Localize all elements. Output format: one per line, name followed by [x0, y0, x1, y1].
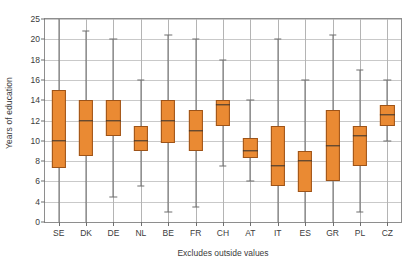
x-tick-mark: [333, 222, 334, 226]
x-tick-label: CH: [217, 228, 229, 238]
whisker-upper: [58, 19, 59, 90]
y-tick-mark: [41, 181, 45, 182]
x-tick-mark: [113, 222, 114, 226]
y-axis-title: Years of education: [2, 4, 16, 222]
whisker-lower: [86, 156, 87, 222]
whisker-upper: [223, 60, 224, 101]
x-tick-mark: [86, 222, 87, 226]
y-tick-mark: [41, 120, 45, 121]
whisker-upper: [359, 70, 360, 126]
whisker-cap-lower: [247, 181, 254, 182]
x-tick-mark: [168, 222, 169, 226]
y-tick-mark: [41, 140, 45, 141]
whisker-cap-lower: [137, 186, 144, 187]
y-tick-mark: [41, 100, 45, 101]
median-line: [52, 140, 66, 141]
y-tick-mark: [41, 222, 45, 223]
box-rect: [161, 100, 175, 143]
median-line: [380, 115, 394, 116]
whisker-cap-upper: [384, 79, 391, 80]
median-line: [353, 135, 367, 136]
y-tick-mark: [41, 201, 45, 202]
y-tick-label: 14: [31, 95, 40, 105]
x-tick-label: IT: [274, 228, 282, 238]
whisker-lower: [195, 151, 196, 207]
whisker-cap-upper: [82, 31, 89, 32]
median-line: [271, 165, 285, 166]
y-tick-mark: [41, 79, 45, 80]
whisker-upper: [305, 80, 306, 151]
whisker-lower: [58, 168, 59, 222]
whisker-upper: [168, 35, 169, 100]
x-tick-label: DE: [108, 228, 120, 238]
y-tick-label: 10: [31, 136, 40, 146]
whisker-cap-upper: [137, 79, 144, 80]
y-tick-mark: [41, 59, 45, 60]
box-rect: [134, 126, 148, 151]
box-rect: [52, 90, 66, 168]
box-rect: [271, 126, 285, 187]
whisker-lower: [113, 136, 114, 197]
y-tick-label: 16: [31, 75, 40, 85]
x-tick-label: GR: [326, 228, 339, 238]
whisker-cap-lower: [110, 196, 117, 197]
y-tick-label: 6: [35, 176, 40, 186]
x-tick-label: AT: [245, 228, 255, 238]
whisker-upper: [86, 31, 87, 100]
x-tick-label: BE: [163, 228, 174, 238]
whisker-lower: [250, 158, 251, 181]
x-tick-mark: [305, 222, 306, 226]
x-tick-label: NL: [135, 228, 146, 238]
x-tick-label: ES: [299, 228, 310, 238]
whisker-cap-upper: [165, 35, 172, 36]
x-tick-label: CZ: [382, 228, 393, 238]
y-tick-mark: [41, 19, 45, 20]
whisker-lower: [277, 186, 278, 222]
box-rect: [353, 126, 367, 167]
whisker-lower: [223, 126, 224, 167]
whisker-cap-upper: [274, 39, 281, 40]
whisker-upper: [277, 39, 278, 125]
whisker-cap-upper: [110, 39, 117, 40]
whisker-cap-upper: [356, 69, 363, 70]
box-rect: [298, 151, 312, 192]
x-tick-label: SE: [53, 228, 64, 238]
median-line: [134, 140, 148, 141]
whisker-lower: [168, 143, 169, 212]
x-tick-mark: [360, 222, 361, 226]
whisker-cap-lower: [356, 211, 363, 212]
whisker-upper: [332, 35, 333, 110]
whisker-cap-upper: [192, 39, 199, 40]
whisker-cap-lower: [192, 206, 199, 207]
x-tick-label: DK: [80, 228, 92, 238]
x-tick-mark: [59, 222, 60, 226]
x-tick-mark: [387, 222, 388, 226]
box-rect: [243, 138, 257, 158]
whisker-lower: [305, 192, 306, 222]
box-rect: [79, 100, 93, 156]
box-rect: [106, 100, 120, 136]
y-tick-label: 12: [31, 116, 40, 126]
whisker-lower: [140, 151, 141, 187]
whisker-cap-lower: [219, 166, 226, 167]
x-tick-mark: [278, 222, 279, 226]
y-tick-label: 4: [35, 197, 40, 207]
whisker-cap-upper: [329, 35, 336, 36]
x-axis-caption: Excludes outside values: [44, 248, 402, 258]
whisker-upper: [195, 39, 196, 110]
x-tick-label: FR: [190, 228, 201, 238]
median-line: [298, 160, 312, 161]
whisker-lower: [359, 166, 360, 212]
box-plot-figure: Years of education 046810121416182025SED…: [0, 0, 409, 278]
x-tick-mark: [196, 222, 197, 226]
median-line: [243, 150, 257, 151]
y-tick-label: 8: [35, 156, 40, 166]
y-tick-label: 20: [31, 34, 40, 44]
plot-area: 046810121416182025SEDKDENLBEFRCHATITESGR…: [44, 18, 402, 223]
whisker-cap-lower: [165, 211, 172, 212]
x-tick-mark: [223, 222, 224, 226]
median-line: [161, 120, 175, 121]
median-line: [188, 130, 202, 131]
y-tick-label: 18: [31, 55, 40, 65]
whisker-lower: [332, 181, 333, 222]
